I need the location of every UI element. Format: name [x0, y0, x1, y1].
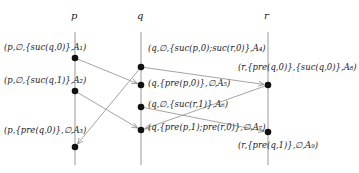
event-dot-A7: [138, 127, 145, 134]
process-label-r: r: [264, 10, 269, 21]
event-dot-A1: [72, 55, 79, 62]
event-dot-A3: [72, 144, 79, 151]
event-dot-A5: [138, 82, 145, 89]
process-label-p: p: [71, 10, 77, 21]
event-label-A9: (r,{pre(q,1)},∅,A₉): [238, 140, 318, 150]
event-label-A5: (q,{pre(p,0)},∅,A₅): [148, 78, 230, 88]
event-label-A8: (r,{pre(q,0)},{suc(q,0)},A₈): [238, 62, 357, 72]
event-label-A7: (q,{pre(p,1);pre(r,0)},∅,A₇): [148, 122, 266, 132]
message-arrow-A4-to-A3: [78, 67, 141, 144]
event-label-A2: (p,∅,{suc(q,1)},A₂): [4, 75, 86, 85]
event-dot-A2: [72, 88, 79, 95]
event-label-A1: (p,∅,{suc(q,0)},A₁): [4, 42, 86, 52]
process-label-q: q: [137, 10, 143, 21]
event-dot-A6: [138, 104, 145, 111]
event-label-A4: (q,∅,{suc(p,0);suc(r,0)},A₄): [148, 43, 266, 53]
event-dot-A4: [138, 64, 145, 71]
event-label-A3: (p,{pre(q,0)},∅,A₃): [4, 125, 86, 135]
event-dot-A8: [265, 82, 272, 89]
event-dot-A9: [265, 129, 272, 136]
event-label-A6: (q,∅,{suc(r,1)},A₆): [148, 99, 228, 109]
